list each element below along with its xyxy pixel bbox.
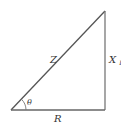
vertical-side-label: X L (108, 54, 121, 66)
base-label: R (53, 113, 62, 124)
angle-theta-arc (21, 99, 26, 110)
angle-label: θ (27, 98, 32, 107)
vertical-side-label-main: X (108, 54, 117, 65)
impedance-triangle-diagram: Z X L R θ (0, 0, 121, 126)
hypotenuse-label: Z (49, 54, 58, 65)
vertical-side-label-subscript: L (118, 59, 121, 66)
hypotenuse-z-line (11, 11, 105, 110)
